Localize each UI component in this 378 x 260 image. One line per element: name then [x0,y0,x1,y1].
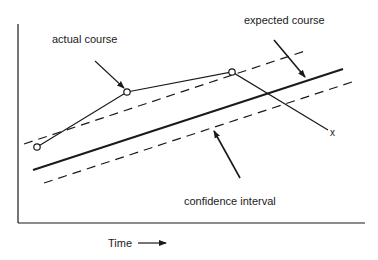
actual-point-1 [34,144,40,150]
confidence-interval-arrow [214,131,240,178]
end-marker-label: x [330,128,335,138]
confidence-interval-label: confidence interval [184,196,276,207]
expected-course-arrow [274,40,305,77]
x-axis-label: Time [108,238,132,249]
actual-point-3 [229,69,235,75]
actual-point-2 [124,89,130,95]
actual-course-label: actual course [52,34,117,45]
actual-course-arrow [95,61,124,88]
actual-course-line [37,72,328,147]
expected-course-label: expected course [244,15,325,26]
expected-course-line [33,69,343,170]
lower-bound-line [44,82,352,183]
upper-bound-line [24,50,308,144]
